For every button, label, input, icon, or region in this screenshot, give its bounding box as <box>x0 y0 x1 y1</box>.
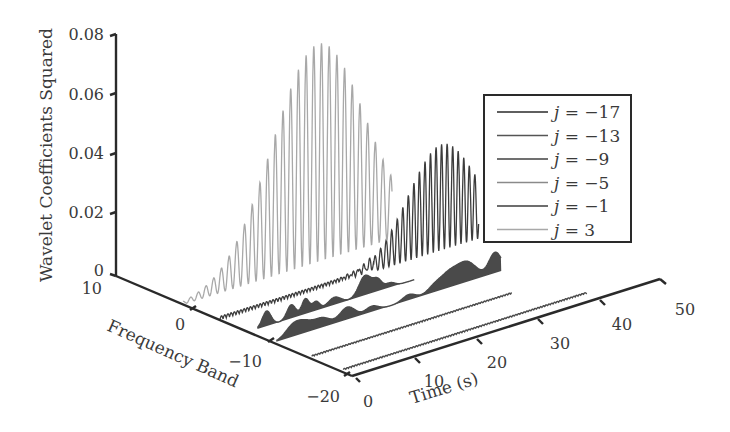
freq-tick-0: 0 <box>175 315 185 334</box>
z-tick-0.06: 0.06 <box>68 85 104 104</box>
trace-j-17 <box>343 293 586 370</box>
frequency-axis-title: Frequency Band <box>104 315 242 391</box>
z-tick-0: 0 <box>94 261 104 280</box>
waterfall-chart: 0.08 0.06 0.04 0.02 0 10 0 −10 −20 0 10 … <box>0 0 730 432</box>
z-tick-0.08: 0.08 <box>68 25 104 44</box>
legend: j = −17j = −13j = −9j = −5j = −1j = 3 <box>484 95 631 242</box>
legend-label: j = −13 <box>550 126 620 146</box>
time-tick-0: 0 <box>363 392 373 411</box>
frequency-tick-labels: 10 0 −10 −20 <box>82 279 340 406</box>
time-tick-40: 40 <box>612 315 632 334</box>
legend-label: j = −1 <box>550 196 609 216</box>
z-tick-0.04: 0.04 <box>68 144 104 163</box>
legend-label: j = 3 <box>550 220 595 240</box>
z-tick-labels: 0.08 0.06 0.04 0.02 0 <box>68 25 104 280</box>
time-tick-50: 50 <box>675 300 695 319</box>
legend-label: j = −17 <box>550 102 620 122</box>
legend-label: j = −9 <box>550 149 609 169</box>
legend-label: j = −5 <box>550 173 609 193</box>
freq-tick-minus-20: −20 <box>306 387 340 406</box>
freq-tick-10: 10 <box>82 279 102 298</box>
z-axis-title: Wavelet Coefficients Squared <box>36 28 56 282</box>
z-tick-0.02: 0.02 <box>68 203 104 222</box>
time-tick-20: 20 <box>487 353 507 372</box>
trace-j3 <box>183 43 392 303</box>
time-tick-30: 30 <box>550 334 570 353</box>
